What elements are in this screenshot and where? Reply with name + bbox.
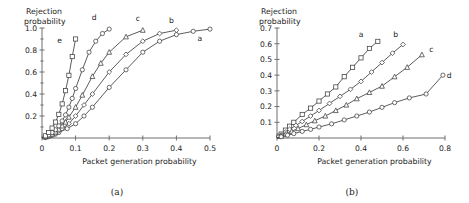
data-point-square <box>317 99 321 103</box>
data-point-square <box>53 120 57 124</box>
data-point-circle <box>309 127 313 131</box>
data-point-triangle <box>323 113 328 118</box>
data-point-circle <box>407 96 411 100</box>
data-point-circle <box>107 85 111 89</box>
data-point-circle <box>82 114 86 118</box>
y-tick-label: 0.1 <box>260 118 272 127</box>
data-point-circle <box>87 50 91 54</box>
data-point-triangle <box>80 93 85 98</box>
series-label-e: e <box>57 36 62 45</box>
y-tick-label: 0.7 <box>260 24 272 33</box>
data-point-triangle <box>392 74 397 79</box>
y-tick-label: 0.2 <box>25 112 37 121</box>
y-tick-label: 0.3 <box>260 87 272 96</box>
x-tick-label: 0 <box>40 144 45 153</box>
data-point-triangle <box>420 52 425 57</box>
panel-caption-b: (b) <box>235 187 469 197</box>
data-point-circle <box>80 68 84 72</box>
data-point-circle <box>65 127 69 131</box>
chart-panel-a: Rejectionprobability0.20.40.60.81.000.10… <box>0 0 234 203</box>
y-tick-label: 0.6 <box>260 40 272 49</box>
data-point-square <box>57 112 61 116</box>
data-point-circle <box>107 27 111 31</box>
data-point-circle <box>100 31 104 35</box>
data-point-circle <box>94 39 98 43</box>
series-line-d <box>277 75 443 138</box>
data-point-square <box>50 126 54 130</box>
data-point-circle <box>124 68 128 72</box>
data-point-circle <box>342 118 346 122</box>
y-axis-title-line1: Rejection <box>26 7 62 16</box>
data-point-square <box>70 55 74 59</box>
data-point-square <box>325 92 329 96</box>
data-point-square <box>309 106 313 110</box>
data-point-circle <box>74 122 78 126</box>
series-d: d <box>42 13 111 138</box>
x-tick-label: 0.2 <box>313 144 325 153</box>
data-point-circle <box>292 132 296 136</box>
figure-container: Rejectionprobability0.20.40.60.81.000.10… <box>0 0 469 203</box>
data-point-diamond <box>308 114 313 119</box>
data-point-diamond <box>157 31 162 36</box>
data-point-circle <box>74 86 78 90</box>
data-point-circle <box>70 96 74 100</box>
data-point-triangle <box>344 102 349 107</box>
data-point-square <box>74 37 78 41</box>
data-point-circle <box>355 114 359 118</box>
series-label-c: c <box>136 14 140 23</box>
data-point-circle <box>158 39 162 43</box>
data-point-triangle <box>304 122 309 127</box>
data-point-square <box>47 130 51 134</box>
y-tick-label: 0.2 <box>260 102 272 111</box>
x-tick-label: 0.8 <box>439 144 451 153</box>
series-label-a: a <box>359 30 364 39</box>
x-tick-label: 0.5 <box>204 144 216 153</box>
chart-svg-b: Rejectionprobability0.10.20.30.40.50.60.… <box>235 0 469 176</box>
y-tick-label: 0.6 <box>25 68 37 77</box>
data-point-square <box>351 65 355 69</box>
series-label-b: b <box>393 30 398 39</box>
x-axis-title: Packet generation probability <box>82 157 197 166</box>
data-point-circle <box>90 105 94 109</box>
x-tick-label: 0.4 <box>355 144 367 153</box>
data-point-circle <box>60 119 64 123</box>
y-tick-label: 0.4 <box>260 71 272 80</box>
data-point-diamond <box>174 28 179 33</box>
data-point-circle <box>63 113 67 117</box>
data-point-square <box>367 46 371 50</box>
data-point-diamond <box>327 101 332 106</box>
x-tick-label: 0.4 <box>170 144 182 153</box>
data-point-square <box>67 73 71 77</box>
data-point-circle <box>300 129 304 133</box>
chart-svg-a: Rejectionprobability0.20.40.60.81.000.10… <box>0 0 234 176</box>
x-tick-label: 0.3 <box>137 144 149 153</box>
data-point-circle <box>393 101 397 105</box>
data-point-triangle <box>312 118 317 123</box>
data-point-triangle <box>73 105 78 110</box>
y-tick-label: 0.4 <box>25 90 37 99</box>
data-point-triangle <box>354 96 359 101</box>
x-tick-label: 0.1 <box>70 144 82 153</box>
series-label-d: d <box>447 71 452 80</box>
data-point-circle <box>380 105 384 109</box>
data-point-triangle <box>367 90 372 95</box>
data-point-square <box>300 112 304 116</box>
series-a: a <box>277 30 380 139</box>
series-e: e <box>42 36 78 138</box>
series-label-b: b <box>169 16 174 25</box>
series-label-c: c <box>429 45 433 54</box>
data-point-diamond <box>300 119 305 124</box>
data-point-circle <box>208 27 212 31</box>
data-point-circle <box>441 73 445 77</box>
data-point-circle <box>424 92 428 96</box>
data-point-circle <box>285 133 289 137</box>
data-point-triangle <box>380 84 385 89</box>
x-tick-label: 0.2 <box>103 144 115 153</box>
series-d: d <box>277 71 452 139</box>
data-point-triangle <box>140 28 145 33</box>
x-axis-title: Packet generation probability <box>317 157 432 166</box>
series-label-d: d <box>92 13 97 22</box>
data-point-square <box>63 89 67 93</box>
data-point-triangle <box>333 108 338 113</box>
data-point-circle <box>67 105 71 109</box>
